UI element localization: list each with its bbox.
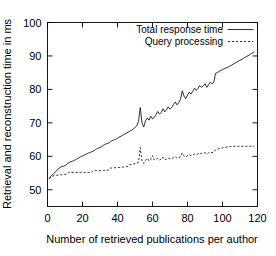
x-tick-label: 20 — [76, 212, 88, 224]
y-tick-label: 60 — [29, 150, 41, 162]
x-tick-label: 40 — [111, 212, 123, 224]
series-line-1 — [49, 146, 254, 178]
y-tick-label: 50 — [29, 184, 41, 196]
legend-entry-total-response-time: Total response time — [136, 24, 223, 35]
chart-legend: Total response time Query processing — [136, 24, 253, 47]
legend-entry-query-processing: Query processing — [145, 36, 223, 47]
y-tick-label: 100 — [23, 17, 41, 29]
x-tick-label: 120 — [248, 212, 266, 224]
y-tick-label: 80 — [29, 83, 41, 95]
x-tick-label: 80 — [181, 212, 193, 224]
x-tick-label: 60 — [146, 212, 158, 224]
x-tick-label: 0 — [44, 212, 50, 224]
x-tick-label: 100 — [213, 212, 231, 224]
chart-figure: 5060708090100 020406080100120 Total resp… — [0, 0, 276, 256]
line-chart: 5060708090100 020406080100120 Total resp… — [0, 0, 276, 256]
y-tick-label: 70 — [29, 117, 41, 129]
data-series-group — [49, 52, 254, 179]
x-axis-label: Number of retrieved publications per aut… — [46, 233, 258, 245]
y-axis-label: Retrieval and reconstruction time in ms — [1, 18, 13, 209]
x-axis-ticks: 020406080100120 — [44, 23, 266, 224]
y-tick-label: 90 — [29, 50, 41, 62]
series-line-0 — [49, 52, 254, 178]
plot-frame — [48, 23, 258, 207]
